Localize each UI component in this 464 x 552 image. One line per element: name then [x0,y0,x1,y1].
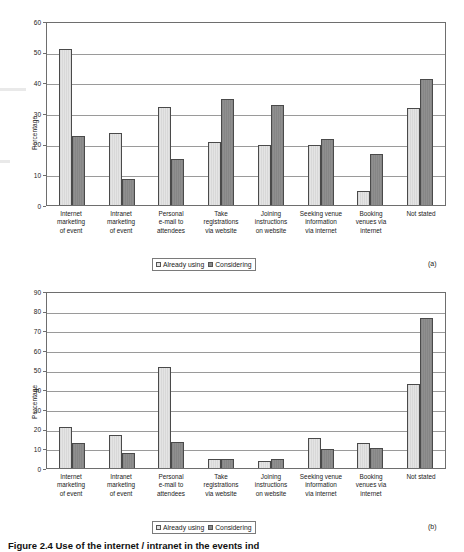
legend-a: Already using Considering [152,258,256,271]
x-axis-label: Bookingvenues viainternet [346,210,396,235]
bar-already-using [59,49,72,205]
y-axis-tick-label: 10 [34,446,41,453]
x-axis-labels-b: Internetmarketingof eventIntranetmarketi… [46,473,446,498]
x-axis-labels-a: Internetmarketingof eventIntranetmarketi… [46,210,446,235]
x-axis-label-line: of event [47,490,95,498]
bar-group [395,23,445,205]
x-axis-label: Intranetmarketingof event [96,473,146,498]
y-axis-tick-mark [43,430,46,431]
y-axis-tick-label: 40 [34,80,41,87]
bar-group [47,23,97,205]
bar-group [147,293,197,468]
x-axis-label-line: venues via [347,218,395,226]
x-axis-label-line: via website [197,490,245,498]
bar-group [47,293,97,468]
y-axis-tick-label: 20 [34,141,41,148]
y-axis-tick-label: 30 [34,111,41,118]
x-axis-label-line: marketing [47,481,95,489]
x-axis-label-line: internet [347,490,395,498]
y-axis-tick-label: 50 [34,367,41,374]
legend-label-considering: Considering [215,523,251,532]
y-axis-tick-label: 0 [37,203,41,210]
y-axis-tick-label: 30 [34,407,41,414]
bar-already-using [208,459,221,468]
y-axis-tick-label: 90 [34,289,41,296]
x-axis-label-line: Internet [47,473,95,481]
y-axis-tick-label: 70 [34,328,41,335]
y-axis-tick-label: 0 [37,466,41,473]
x-axis-label: Joininginstructionson website [246,473,296,498]
y-axis-tick-mark [43,206,46,207]
x-axis-label-line: Joining [247,210,295,218]
bar-considering [171,442,184,468]
x-axis-label-line: Intranet [97,473,145,481]
legend-item-considering: Considering [208,523,251,532]
bar-group [395,293,445,468]
x-axis-label: Internetmarketingof event [46,210,96,235]
x-axis-label: Seeking venueinformationvia internet [296,473,346,498]
bar-group [196,23,246,205]
x-axis-label-line: Internet [47,210,95,218]
light-swatch-icon [156,262,161,267]
x-axis-label: Personale-mail toattendees [146,210,196,235]
y-axis-tick-mark [43,145,46,146]
legend-item-already-using: Already using [156,260,204,269]
x-axis-label: Joininginstructionson website [246,210,296,235]
bar-considering [221,99,234,205]
legend-item-already-using: Already using [156,523,204,532]
y-axis-tick-mark [43,83,46,84]
x-axis-label-line: Personal [147,210,195,218]
bar-already-using [357,191,370,205]
bar-considering [271,105,284,205]
figure-caption: Figure 2.4 Use of the internet / intrane… [8,540,458,552]
bar-already-using [59,427,72,468]
x-axis-label-line: Seeking venue [297,210,345,218]
y-axis-tick-mark [43,312,46,313]
x-axis-label: Internetmarketingof event [46,473,96,498]
bar-considering [72,443,85,468]
bar-already-using [308,438,321,468]
bar-group [196,293,246,468]
bar-considering [370,448,383,468]
y-axis-tick-label: 50 [34,49,41,56]
y-axis-tick-mark [43,331,46,332]
bar-group [296,293,346,468]
x-axis-label-line: via website [197,227,245,235]
legend-b: Already using Considering [152,521,256,534]
y-axis-tick-label: 60 [34,348,41,355]
x-axis-label: Not stated [396,210,446,235]
dark-swatch-icon [208,525,213,530]
bar-considering [221,459,234,468]
x-axis-label-line: Booking [347,473,395,481]
y-axis-tick-mark [43,175,46,176]
x-axis-label-line: internet [347,227,395,235]
bar-considering [321,449,334,468]
y-axis-tick-mark [43,410,46,411]
x-axis-label-line: Intranet [97,210,145,218]
x-axis-label-line: via internet [297,490,345,498]
y-axis-tick-mark [43,371,46,372]
bar-considering [122,179,135,205]
bar-group [147,23,197,205]
x-axis-label-line: of event [97,227,145,235]
x-axis-label: Intranetmarketingof event [96,210,146,235]
y-axis-tick-label: 80 [34,308,41,315]
x-axis-label: Bookingvenues viainternet [346,473,396,498]
panel-tag-b: (b) [428,523,437,530]
chart-panel-b: Percentage 0102030405060708090 Internetm… [0,278,464,536]
x-axis-label-line: of event [47,227,95,235]
x-axis-label-line: attendees [147,227,195,235]
x-axis-label-line: e-mail to [147,481,195,489]
y-axis-tick-label: 60 [34,19,41,26]
bar-group [246,23,296,205]
y-axis-tick-mark [43,114,46,115]
bar-already-using [158,367,171,468]
y-axis-tick-label: 10 [34,172,41,179]
plot-area-a [46,22,446,206]
x-axis-label-line: Personal [147,473,195,481]
x-axis-label-line: marketing [97,218,145,226]
y-axis-tick-mark [43,469,46,470]
y-axis-tick-label: 20 [34,426,41,433]
y-axis-tick-mark [43,22,46,23]
x-axis-label-line: on website [247,490,295,498]
